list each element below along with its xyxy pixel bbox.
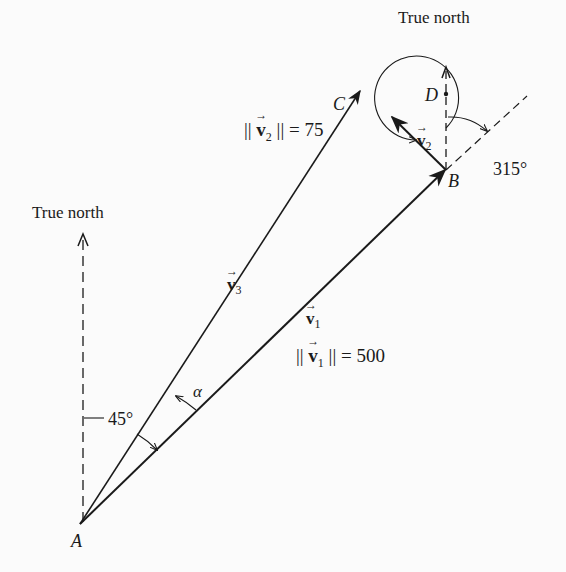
- v1-label: v1: [306, 310, 321, 330]
- v3-label: v3: [227, 276, 242, 296]
- point-b-label: B: [448, 172, 459, 190]
- v2-label: v2: [417, 132, 432, 152]
- angle-315-label: 315°: [493, 160, 527, 178]
- vector-diagram: [0, 0, 566, 572]
- vector-v3: [80, 91, 360, 524]
- point-c-label: C: [333, 95, 345, 113]
- angle-bearing-arc: [448, 117, 487, 131]
- v1-magnitude-label: || v1 || = 500: [296, 346, 385, 369]
- angle-alpha-label: α: [193, 383, 202, 400]
- north-label-right: True north: [398, 9, 470, 26]
- angle-45-arc: [137, 434, 157, 450]
- point-d: [444, 92, 448, 96]
- v2-magnitude-label: || v2 || = 75: [244, 120, 323, 143]
- vector-v1: [80, 170, 445, 524]
- angle-45-label: 45°: [108, 410, 133, 428]
- north-label-left: True north: [32, 204, 104, 221]
- point-a-label: A: [71, 532, 82, 550]
- point-d-label: D: [425, 86, 438, 104]
